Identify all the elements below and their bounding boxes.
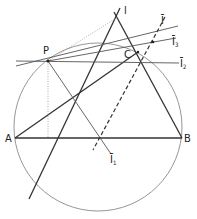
dashed-line-lbar — [93, 17, 165, 150]
label-B: B — [184, 132, 191, 145]
label-lbar2: Ī2 — [180, 57, 186, 70]
point-l3-intersection — [152, 41, 155, 44]
label-lbar: Ī — [161, 14, 164, 27]
side-B-apex — [114, 12, 182, 138]
label-lbar1: Ī1 — [110, 153, 116, 166]
circumcircle — [14, 43, 182, 211]
label-P: P — [43, 44, 49, 57]
label-l: l — [124, 4, 127, 17]
line-l3-right — [48, 38, 176, 61]
side-A-C — [15, 52, 138, 138]
point-C — [137, 51, 139, 53]
label-A: A — [5, 132, 12, 145]
label-C: C — [124, 48, 131, 61]
geometry-diagram: P A B C l Ī Ī3 Ī2 Ī1 — [0, 0, 197, 219]
line-l — [29, 8, 120, 199]
label-lbar3: Ī3 — [172, 35, 178, 48]
point-P — [47, 60, 50, 63]
line-l2 — [16, 61, 179, 63]
line-l3 — [16, 26, 178, 66]
